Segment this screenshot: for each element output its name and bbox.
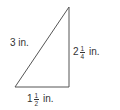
vertical-leg-unit: in.	[89, 46, 100, 57]
triangle-diagram	[0, 0, 120, 110]
vertical-leg-label: 214 in.	[73, 45, 100, 60]
fraction-denominator: 2	[34, 100, 40, 107]
horizontal-leg-unit: in.	[43, 93, 54, 104]
vertical-leg-fraction: 14	[80, 45, 86, 60]
vertical-leg-whole: 2	[73, 46, 79, 57]
fraction-denominator: 4	[80, 53, 86, 60]
fraction-numerator: 1	[80, 45, 86, 53]
horizontal-leg-fraction: 12	[34, 92, 40, 107]
hypotenuse-label: 3 in.	[10, 37, 29, 48]
horizontal-leg-label: 112 in.	[27, 92, 54, 107]
fraction-numerator: 1	[34, 92, 40, 100]
horizontal-leg-whole: 1	[27, 93, 33, 104]
